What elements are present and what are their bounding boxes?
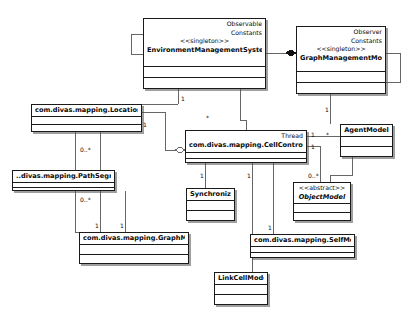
uml-operations-compartment-linkcellmodel [215, 295, 267, 304]
multiplicity-m-ems-loc: 1 [181, 95, 185, 102]
edge-ems-self-loop [131, 34, 143, 54]
uml-operations-compartment-objectmodel [294, 213, 350, 220]
uml-supertype-ems-0: Observable [147, 20, 262, 29]
uml-class-header-objectmodel: <<abstract>>ObjectModel [294, 183, 350, 204]
multiplicity-m-cell-sync: 1 [200, 172, 204, 179]
multiplicity-m-self-one: 1 [268, 224, 272, 231]
uml-class-locationnode[interactable]: com.divas.mapping.LocationNode [31, 104, 142, 132]
uml-class-synchronizer[interactable]: Synchronizer [186, 188, 235, 221]
multiplicity-m-cell-agent-left: 1 [311, 131, 315, 138]
uml-operations-compartment-graphmodel [80, 255, 188, 263]
uml-class-name-objectmodel: ObjectModel [297, 193, 347, 202]
multiplicity-m-graph-one-b: 1 [120, 222, 124, 229]
uml-class-graphmodel[interactable]: com.divas.mapping.GraphModel [79, 232, 189, 264]
uml-class-name-locationnode: com.divas.mapping.LocationNode [35, 106, 138, 115]
multiplicity-m-cell-link: 1 [247, 172, 251, 179]
uml-operations-compartment-pathsegment [13, 188, 114, 190]
uml-attributes-compartment-linkcellmodel [215, 285, 267, 295]
uml-operations-compartment-selfmodel [251, 253, 354, 257]
uml-class-cellcontroller[interactable]: Threadcom.divas.mapping.CellController [185, 130, 307, 163]
multiplicity-m-cell-obj: 0..* [308, 172, 319, 179]
uml-attributes-compartment-objectmodel [294, 204, 350, 213]
uml-class-header-graphmodel: com.divas.mapping.GraphModel [80, 233, 188, 245]
uml-attributes-compartment-ems [144, 67, 265, 78]
multiplicity-m-ems-cell: * [206, 114, 209, 121]
uml-class-name-synchronizer: Synchronizer [190, 190, 231, 199]
uml-operations-compartment-agentmodel [341, 147, 392, 156]
uml-class-header-locationnode: com.divas.mapping.LocationNode [32, 105, 141, 117]
uml-stereotype-ems: <<singleton>> [147, 37, 262, 46]
uml-class-header-cellcontroller: Threadcom.divas.mapping.CellController [186, 131, 306, 153]
edge-gmm-self-loop [386, 53, 400, 82]
diamond-gmm-self [286, 50, 296, 56]
edge-locationnode-cellcontroller [142, 112, 185, 150]
uml-class-header-agentmodel: AgentModel [341, 125, 392, 137]
multiplicity-m-path-graph: 0..* [80, 196, 91, 203]
uml-class-pathsegment[interactable]: ..divas.mapping.PathSegment [12, 170, 115, 191]
uml-class-name-agentmodel: AgentModel [344, 126, 389, 135]
multiplicity-m-loc-cell: 1 [143, 121, 147, 128]
multiplicity-m-cell-obj-one: 1 [311, 143, 315, 150]
uml-supertype-ems-1: Constants [147, 29, 262, 38]
uml-supertype-gmm-1: Constants [300, 37, 382, 46]
uml-class-header-synchronizer: Synchronizer [187, 189, 234, 201]
uml-operations-compartment-cellcontroller [186, 159, 306, 162]
uml-class-header-ems: ObservableConstants<<singleton>>Environm… [144, 19, 265, 67]
uml-class-name-graphmodel: com.divas.mapping.GraphModel [83, 234, 185, 243]
uml-class-header-gmm: ObserverConstants<<singleton>>GraphManag… [297, 27, 385, 72]
multiplicity-m-graph-one-a: 1 [95, 222, 99, 229]
uml-class-objectmodel[interactable]: <<abstract>>ObjectModel [293, 182, 351, 221]
edge-pathsegment-graphmodel-b [75, 191, 79, 232]
uml-supertype-cellcontroller-0: Thread [189, 132, 303, 141]
uml-class-name-cellcontroller: com.divas.mapping.CellController [189, 141, 303, 150]
uml-operations-compartment-synchronizer [187, 211, 234, 220]
uml-attributes-compartment-agentmodel [341, 137, 392, 147]
uml-class-header-selfmodel: com.divas.mapping.SelfModel [251, 235, 354, 247]
uml-class-selfmodel[interactable]: com.divas.mapping.SelfModel [250, 234, 355, 258]
uml-attributes-compartment-graphmodel [80, 245, 188, 255]
uml-diagram-canvas: ObservableConstants<<singleton>>Environm… [0, 0, 417, 326]
uml-operations-compartment-ems [144, 78, 265, 88]
uml-stereotype-gmm: <<singleton>> [300, 45, 382, 54]
uml-class-name-ems: EnvironmentManagementSystem [147, 46, 262, 55]
multiplicity-m-gmm-agent: 1 [325, 106, 329, 113]
uml-class-ems[interactable]: ObservableConstants<<singleton>>Environm… [143, 18, 266, 89]
uml-class-name-pathsegment: ..divas.mapping.PathSegment [16, 172, 111, 181]
multiplicity-m-loc-path: 0..* [80, 146, 91, 153]
uml-attributes-compartment-gmm [297, 72, 385, 83]
uml-supertype-gmm-0: Observer [300, 28, 382, 37]
uml-class-gmm[interactable]: ObserverConstants<<singleton>>GraphManag… [296, 26, 386, 94]
uml-operations-compartment-gmm [297, 83, 385, 93]
uml-class-name-selfmodel: com.divas.mapping.SelfModel [254, 236, 351, 245]
edge-agentmodel-objectmodel [330, 157, 352, 182]
uml-stereotype-objectmodel: <<abstract>> [297, 184, 347, 193]
uml-class-name-gmm: GraphManagementModel [300, 54, 382, 63]
uml-class-header-pathsegment: ..divas.mapping.PathSegment [13, 171, 114, 183]
uml-class-header-linkcellmodel: LinkCellModel [215, 273, 267, 285]
diamond-locationnode-cell [175, 147, 185, 153]
uml-attributes-compartment-locationnode [32, 117, 141, 125]
uml-attributes-compartment-synchronizer [187, 201, 234, 211]
uml-operations-compartment-locationnode [32, 125, 141, 131]
uml-class-linkcellmodel[interactable]: LinkCellModel [214, 272, 268, 305]
multiplicity-m-cell-agent-right: * [326, 131, 329, 138]
edge-ems-cellcontroller [240, 89, 246, 130]
uml-class-name-linkcellmodel: LinkCellModel [218, 274, 264, 283]
uml-class-agentmodel[interactable]: AgentModel [340, 124, 393, 157]
